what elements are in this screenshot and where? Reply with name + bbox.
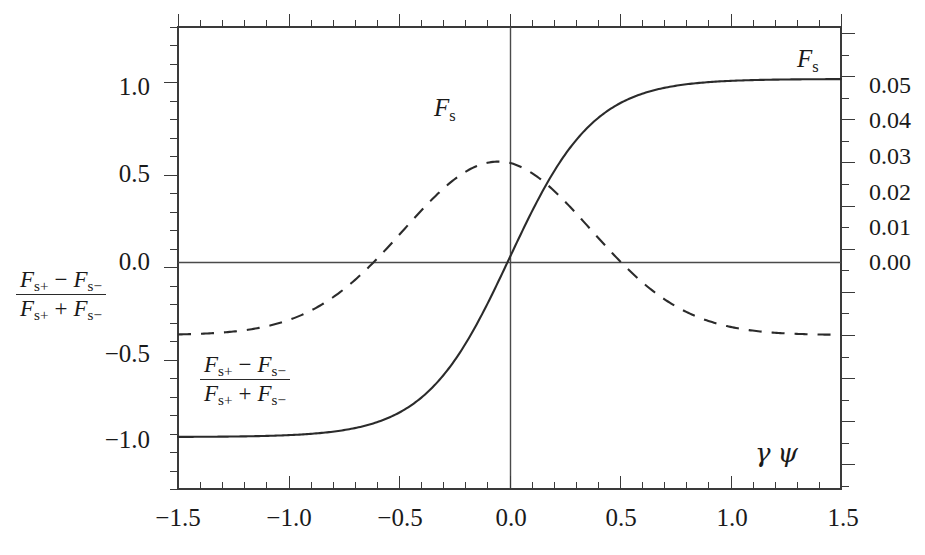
axis-ticks xyxy=(164,14,855,490)
f-symbol: F xyxy=(434,94,449,121)
f-subscript-splus: s+ xyxy=(34,307,48,324)
left-tick-label-5: −1.0 xyxy=(48,427,150,452)
left-tick-label-1: 1.0 xyxy=(64,74,150,99)
f-subscript-sminus: s− xyxy=(272,392,286,409)
f-subscript-splus: s+ xyxy=(34,277,48,294)
annotation-ratio-in-plot: Fs+−Fs− Fs++Fs− xyxy=(200,353,290,408)
f-symbol: F xyxy=(20,267,34,292)
f-symbol: F xyxy=(74,296,88,321)
bottom-tick-label-1: −1.5 xyxy=(133,505,223,530)
f-subscript-sminus: s− xyxy=(88,307,102,324)
f-symbol: F xyxy=(797,45,812,72)
f-subscript-sminus: s− xyxy=(272,362,286,379)
f-symbol: F xyxy=(258,381,272,406)
right-tick-label-5: 0.01 xyxy=(869,215,911,239)
ratio-fraction: Fs+−Fs− Fs++Fs− xyxy=(200,353,290,408)
f-symbol: F xyxy=(204,381,218,406)
bottom-tick-label-3: −0.5 xyxy=(355,505,445,530)
f-subscript-splus: s+ xyxy=(218,362,232,379)
bottom-tick-label-5: 0.5 xyxy=(576,505,666,530)
bottom-tick-label-2: −1.0 xyxy=(244,505,334,530)
left-tick-label-2: 0.5 xyxy=(64,161,150,186)
bottom-axis-title: γψ xyxy=(755,440,798,466)
f-symbol: F xyxy=(20,296,34,321)
annotation-fs-on-dashed-curve: Fs xyxy=(434,95,456,124)
plus-operator: + xyxy=(49,296,74,321)
right-tick-label-1: 0.05 xyxy=(869,73,911,97)
left-axis-title-fraction: Fs+−Fs− Fs++Fs− xyxy=(16,268,106,323)
psi-symbol: ψ xyxy=(778,438,798,468)
figure-canvas: 1.0 0.5 0.0 −0.5 −1.0 Fs+−Fs− Fs++Fs− 0.… xyxy=(0,0,925,555)
minus-operator: − xyxy=(49,267,74,292)
bottom-tick-label-4: 0.0 xyxy=(466,505,556,530)
annotation-fs-upper-right: Fs xyxy=(797,46,819,75)
gamma-symbol: γ xyxy=(755,438,771,468)
f-subscript-splus: s+ xyxy=(218,392,232,409)
f-subscript-s: s xyxy=(449,106,455,125)
left-axis-title: Fs+−Fs− Fs++Fs− xyxy=(16,268,106,323)
f-subscript-s: s xyxy=(812,57,818,76)
plus-operator: + xyxy=(233,381,258,406)
f-symbol: F xyxy=(258,352,272,377)
f-symbol: F xyxy=(74,267,88,292)
dashed-curve-fs xyxy=(178,162,841,335)
left-tick-label-4: −0.5 xyxy=(48,341,150,366)
right-tick-label-4: 0.02 xyxy=(869,180,911,204)
f-symbol: F xyxy=(204,352,218,377)
right-tick-label-6: 0.00 xyxy=(869,250,911,274)
bottom-tick-label-7: 1.5 xyxy=(798,505,888,530)
bottom-tick-label-6: 1.0 xyxy=(687,505,777,530)
right-tick-label-2: 0.04 xyxy=(869,108,911,132)
f-subscript-sminus: s− xyxy=(88,277,102,294)
minus-operator: − xyxy=(233,352,258,377)
right-tick-label-3: 0.03 xyxy=(869,144,911,168)
